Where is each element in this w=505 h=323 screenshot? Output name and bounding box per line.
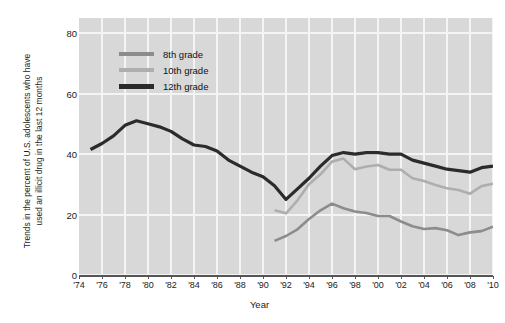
x-tick-label: '76 xyxy=(96,280,108,290)
x-tick-label: '74 xyxy=(73,280,85,290)
x-tick-label: '08 xyxy=(464,280,476,290)
y-axis-title-line-2: used an illicit drug in the last 12 mont… xyxy=(33,54,45,248)
x-axis-title: Year xyxy=(0,299,505,310)
x-tick-mark xyxy=(125,276,126,279)
y-tick-label: 40 xyxy=(55,149,77,160)
x-tick-mark xyxy=(309,276,310,279)
legend-label: 12th grade xyxy=(163,81,208,92)
x-tick-label: '04 xyxy=(418,280,430,290)
legend-item: 10th grade xyxy=(119,62,237,78)
x-tick-mark xyxy=(401,276,402,279)
x-tick-label: '78 xyxy=(119,280,131,290)
legend-item: 8th grade xyxy=(119,46,237,62)
legend-label: 10th grade xyxy=(163,65,208,76)
x-tick-mark xyxy=(240,276,241,279)
series-line-8th-grade xyxy=(275,204,494,241)
x-tick-mark xyxy=(102,276,103,279)
x-tick-label: '86 xyxy=(211,280,223,290)
x-tick-mark xyxy=(378,276,379,279)
series-line-12th-grade xyxy=(91,121,494,200)
y-axis-title: Trends in the percent of U.S. adolescent… xyxy=(20,28,46,274)
x-tick-label: '94 xyxy=(303,280,315,290)
y-tick-label: 80 xyxy=(55,28,77,39)
x-tick-mark xyxy=(470,276,471,279)
x-tick-label: '96 xyxy=(326,280,338,290)
y-tick-label: 20 xyxy=(55,209,77,220)
legend-label: 8th grade xyxy=(163,49,203,60)
x-tick-mark xyxy=(332,276,333,279)
x-tick-mark xyxy=(194,276,195,279)
legend-swatch-icon xyxy=(119,84,154,89)
x-tick-label: '80 xyxy=(142,280,154,290)
x-tick-label: '90 xyxy=(257,280,269,290)
x-axis-ticks: '74'76'78'80'82'84'86'88'90'92'94'96'98'… xyxy=(0,276,505,298)
x-tick-mark xyxy=(355,276,356,279)
legend-swatch-icon xyxy=(119,68,154,72)
chart-figure: Trends in the percent of U.S. adolescent… xyxy=(0,0,505,323)
x-tick-label: '84 xyxy=(188,280,200,290)
x-tick-mark xyxy=(447,276,448,279)
x-tick-label: '98 xyxy=(349,280,361,290)
x-tick-mark xyxy=(217,276,218,279)
x-tick-label: '10 xyxy=(487,280,499,290)
x-tick-mark xyxy=(424,276,425,279)
x-tick-mark xyxy=(263,276,264,279)
y-tick-label: 60 xyxy=(55,88,77,99)
x-tick-label: '82 xyxy=(165,280,177,290)
legend-swatch-icon xyxy=(119,52,154,56)
series-line-10th-grade xyxy=(275,159,494,214)
chart-legend: 8th grade10th grade12th grade xyxy=(119,46,237,94)
x-tick-label: '88 xyxy=(234,280,246,290)
x-tick-mark xyxy=(286,276,287,279)
x-tick-mark xyxy=(148,276,149,279)
x-tick-label: '92 xyxy=(280,280,292,290)
y-axis-ticks: 020406080 xyxy=(53,0,77,323)
x-tick-mark xyxy=(171,276,172,279)
x-tick-label: '00 xyxy=(372,280,384,290)
x-tick-label: '02 xyxy=(395,280,407,290)
x-axis-title-text: Year xyxy=(250,299,269,310)
x-tick-mark xyxy=(493,276,494,279)
legend-item: 12th grade xyxy=(119,78,237,94)
y-axis-title-line-1: Trends in the percent of U.S. adolescent… xyxy=(22,54,34,248)
x-tick-mark xyxy=(79,276,80,279)
x-tick-label: '06 xyxy=(441,280,453,290)
